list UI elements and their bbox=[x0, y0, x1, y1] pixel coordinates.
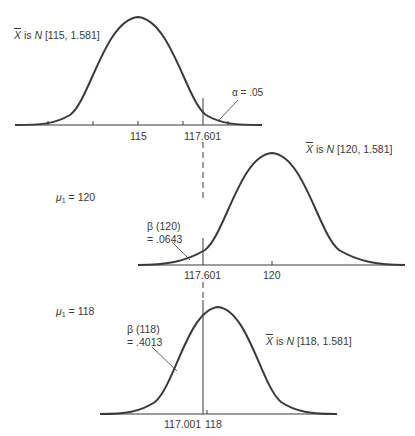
beta118-pointer bbox=[152, 347, 177, 371]
alpha-label: α = .05 bbox=[232, 88, 263, 98]
mu120-distribution-label: X is N [120, 1.581] bbox=[306, 144, 392, 155]
alpha-pointer bbox=[218, 100, 238, 121]
panel-mu120 bbox=[138, 153, 405, 265]
beta120-label: β (120) = .0643 bbox=[147, 220, 182, 246]
panel-mu118 bbox=[100, 300, 337, 414]
beta118-label: β (118) = .4013 bbox=[127, 323, 162, 349]
power-diagram bbox=[0, 0, 415, 436]
tick-label-115: 115 bbox=[130, 131, 147, 142]
tick-label-118: 118 bbox=[205, 419, 222, 430]
mu118-distribution-label: X is N [118, 1.581] bbox=[266, 336, 352, 347]
tick-label-117601-a: 117.601 bbox=[184, 131, 221, 142]
tick-label-117601-b: 117.601 bbox=[184, 270, 221, 281]
tick-label-117001: 117.001 bbox=[164, 419, 201, 430]
tick-label-120: 120 bbox=[263, 270, 281, 281]
mu1-120-label: μ1 = 120 bbox=[56, 192, 95, 204]
h0-distribution-label: X is N [115, 1.581] bbox=[14, 30, 100, 41]
mu1-118-label: μ1 = 118 bbox=[56, 306, 94, 318]
